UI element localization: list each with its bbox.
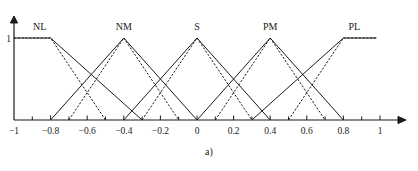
membership-curve-pl-wide <box>252 38 376 120</box>
x-axis-arrow <box>398 116 406 123</box>
set-label-nm: NM <box>116 21 132 32</box>
membership-curve-nm-wide <box>51 38 197 120</box>
y-axis-tick-label: 1 <box>6 34 11 44</box>
x-axis-tick-label: −0.6 <box>79 126 96 136</box>
x-axis-tick-label: −0.4 <box>115 126 132 136</box>
membership-curve-nm-narrow <box>69 38 179 120</box>
membership-curve-nl-narrow <box>14 38 106 120</box>
x-axis-tick-label: −1 <box>9 126 19 136</box>
x-axis-tick-label: 0.2 <box>228 126 240 136</box>
x-axis-tick-label: 1 <box>378 126 383 136</box>
membership-curve-pm-wide <box>197 38 343 120</box>
x-axis-tick-label: 0.4 <box>264 126 276 136</box>
membership-curve-s-narrow <box>142 38 252 120</box>
set-label-pm: PM <box>263 21 278 32</box>
figure-container: −1−0.8−0.6−0.4−0.200.20.40.60.811NLNMSPM… <box>0 0 418 171</box>
set-label-pl: PL <box>349 21 361 32</box>
x-axis-tick-label: −0.8 <box>42 126 59 136</box>
set-label-nl: NL <box>33 21 46 32</box>
membership-curve-pm-narrow <box>215 38 325 120</box>
y-axis-arrow <box>10 16 17 23</box>
x-axis-tick-label: 0 <box>195 126 200 136</box>
x-axis-tick-label: 0.6 <box>301 126 313 136</box>
x-axis-tick-label: −0.2 <box>152 126 169 136</box>
set-label-s: S <box>194 21 200 32</box>
x-axis-tick-label: 0.8 <box>337 126 349 136</box>
figure-caption: a) <box>0 146 418 157</box>
membership-curve-nl-wide <box>14 38 142 120</box>
membership-curve-s-wide <box>124 38 270 120</box>
